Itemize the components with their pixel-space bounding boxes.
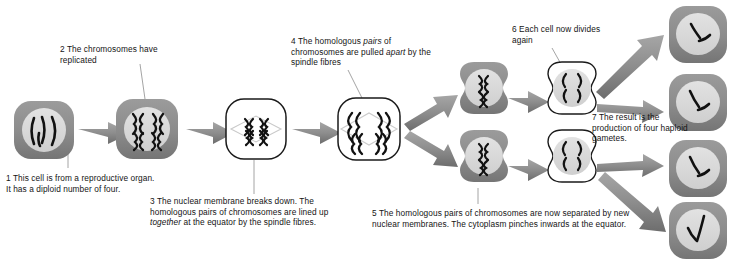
arrow-stage-4-to-5-bottom (404, 131, 458, 167)
gamete-3 (669, 140, 727, 197)
cell-parent (14, 101, 74, 159)
caption-5: 5 The homologous pairs of chromosomes ar… (372, 208, 652, 229)
caption-4: 4 The homologous pairs of chromosomes ar… (291, 36, 441, 68)
cell-division-bottom (548, 130, 596, 182)
caption-3: 3 The nuclear membrane breaks down. The … (150, 196, 350, 228)
caption-4-emphasis-pairs: pairs (363, 36, 381, 46)
cell-daughter-bottom (460, 130, 508, 182)
arrow-stage-5-to-6-bottom (508, 159, 549, 181)
gamete-4 (669, 202, 727, 259)
arrow-stage-3-to-4 (292, 122, 341, 144)
cell-equator (226, 99, 286, 159)
caption-4-emphasis-apart: apart (386, 47, 405, 57)
caption-3-text-after: at the equator by the spindle fibres. (181, 217, 316, 227)
gamete-1 (669, 6, 727, 63)
caption-2: 2 The chromosomes have replicated (60, 44, 190, 65)
caption-6: 6 Each cell now divides again (512, 24, 622, 45)
caption-4-text-before: 4 The homologous (291, 36, 363, 46)
arrow-stage-6-to-7-g3 (597, 154, 664, 177)
caption-7: 7 The result is the production of four h… (592, 112, 692, 144)
cell-replicated (116, 99, 178, 159)
meiosis-diagram: 1 This cell is from a reproductive organ… (0, 0, 742, 263)
cell-daughter-top (460, 62, 508, 114)
arrow-stage-5-to-6-top (508, 91, 549, 113)
cell-anaphase (338, 98, 400, 160)
caption-3-emphasis: together (150, 217, 181, 227)
caption-3-text-before: 3 The nuclear membrane breaks down. The … (150, 196, 328, 217)
arrow-stage-4-to-5-top (404, 95, 458, 131)
caption-1: 1 This cell is from a reproductive organ… (6, 173, 156, 194)
cell-division-top (548, 62, 596, 114)
